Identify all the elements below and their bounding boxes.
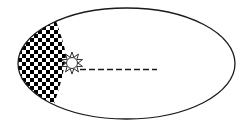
orbit-diagram-canvas: [0, 0, 249, 128]
orbit-diagram: [0, 0, 249, 128]
